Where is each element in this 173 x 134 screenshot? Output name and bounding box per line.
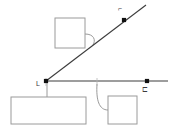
callout-boxes-group [11,18,137,124]
diagonal-point-label: ⌐ [118,5,122,12]
horizontal-point-label: ⊏ [142,86,148,93]
horizontal-point[interactable] [145,79,149,83]
diagonal-point[interactable] [122,18,126,22]
geometry-diagram: L ⌐ ⊏ [0,0,173,134]
lower-right-leader-line [97,84,108,110]
upper-callout-box[interactable] [55,18,85,48]
lower-right-callout-box[interactable] [108,96,137,124]
vertex-point[interactable] [44,79,48,83]
tick-marks-group [46,78,97,86]
vertex-point-label: L [36,80,40,87]
lower-left-callout-box[interactable] [11,97,86,124]
diagram-canvas: L ⌐ ⊏ [0,0,173,134]
point-labels-group: L ⌐ ⊏ [36,5,148,93]
upper-leader-line [85,34,94,45]
